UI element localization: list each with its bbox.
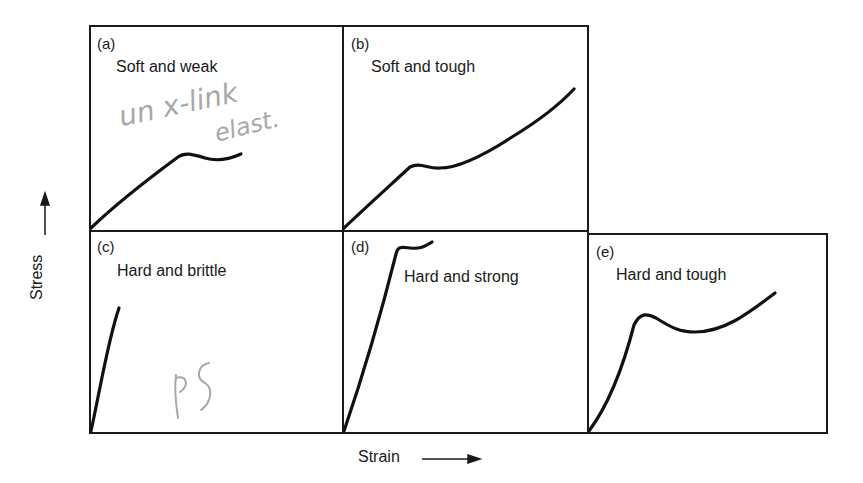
x-axis-label: Strain (358, 448, 400, 466)
curve-soft-and-weak (91, 154, 241, 228)
panel-b-label: (b) (351, 35, 369, 52)
panel-c-title: Hard and brittle (117, 262, 226, 280)
panel-d-title: Hard and strong (404, 268, 519, 286)
curve-hard-and-tough (589, 293, 775, 431)
panel-a-title: Soft and weak (116, 58, 217, 76)
handwriting-ps (175, 363, 210, 418)
panel-e-frame (588, 234, 827, 433)
curve-soft-and-tough (344, 89, 574, 228)
panel-b-title: Soft and tough (371, 58, 475, 76)
panel-d-frame (343, 231, 588, 433)
panel-e-title: Hard and tough (616, 266, 726, 284)
panel-a-label: (a) (97, 35, 115, 52)
panel-c-label: (c) (97, 238, 115, 255)
panel-e-label: (e) (596, 243, 614, 260)
panel-b-frame (343, 26, 588, 231)
panel-d-label: (d) (351, 238, 369, 255)
stress-arrow-head-icon (41, 193, 49, 205)
strain-arrow-head-icon (468, 455, 480, 463)
y-axis-label: Stress (28, 255, 46, 300)
curve-hard-and-brittle (91, 308, 119, 431)
